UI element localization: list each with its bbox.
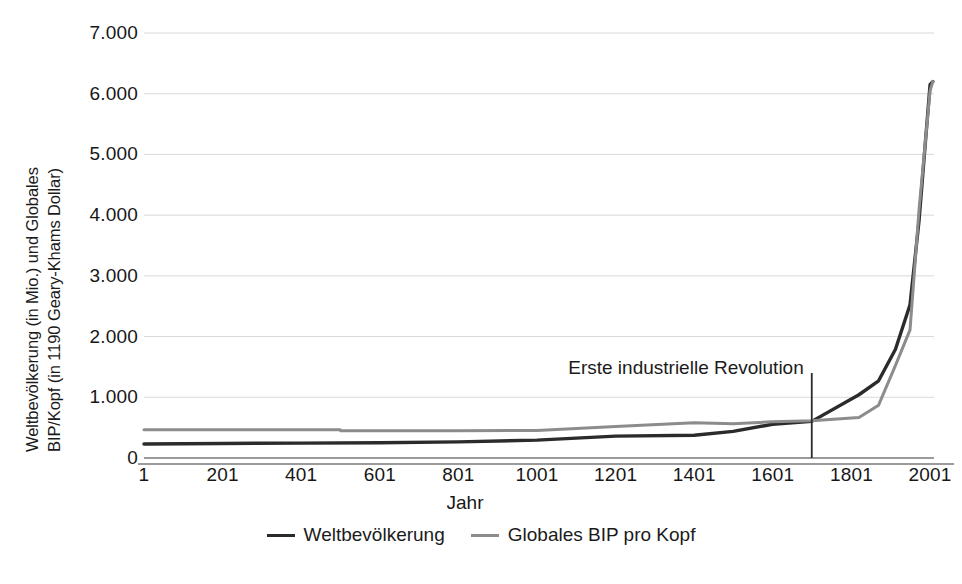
annotation-erste-industrielle-revolution: Erste industrielle Revolution (0, 357, 804, 379)
legend-label: Globales BIP pro Kopf (508, 524, 696, 546)
legend-item-weltbevoelkerung[interactable]: Weltbevölkerung (267, 524, 445, 546)
x-axis-tick-labels: 1201401601801100112011401160118012001 (0, 464, 962, 494)
chart-legend: WeltbevölkerungGlobales BIP pro Kopf (0, 524, 962, 546)
x-tick-label: 1201 (594, 464, 637, 486)
x-tick-label: 801 (442, 464, 474, 486)
x-axis-title-text: Jahr (447, 492, 484, 513)
x-tick-label: 601 (364, 464, 396, 486)
legend-item-globales-bip-pro-kopf[interactable]: Globales BIP pro Kopf (471, 524, 696, 546)
x-tick-label: 2001 (909, 464, 952, 486)
x-tick-label: 1401 (673, 464, 716, 486)
series-line-weltbevoelkerung (144, 82, 933, 444)
gridlines (144, 33, 934, 397)
x-tick-label: 1 (139, 464, 150, 486)
legend-label: Weltbevölkerung (304, 524, 445, 546)
data-series (144, 82, 933, 444)
chart-figure: Weltbevölkerung (in Mio.) und Globales B… (0, 0, 962, 584)
x-tick-label: 201 (206, 464, 238, 486)
x-tick-label: 1801 (830, 464, 873, 486)
x-tick-label: 1001 (515, 464, 558, 486)
x-axis-title: Jahr (0, 492, 962, 514)
x-tick-label: 401 (285, 464, 317, 486)
legend-swatch-icon (471, 534, 499, 537)
legend-swatch-icon (267, 534, 295, 537)
x-tick-label: 1601 (751, 464, 794, 486)
